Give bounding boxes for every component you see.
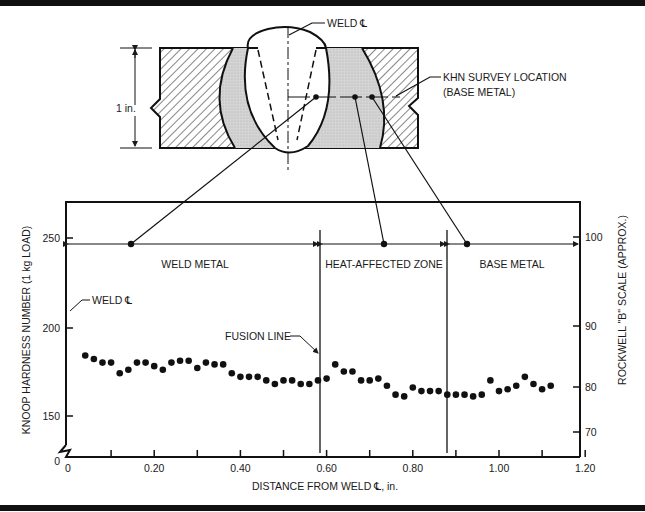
- x-tick-label: 0.20: [144, 462, 165, 474]
- x-axis-ticks: [111, 450, 585, 457]
- data-point: [496, 388, 503, 395]
- data-point: [461, 391, 468, 398]
- x-tick-label: 1.00: [489, 462, 510, 474]
- zone-label-haz: HEAT-AFFECTED ZONE: [325, 258, 443, 270]
- x-axis-label: DISTANCE FROM WELD ℄, in.: [252, 480, 398, 492]
- y-tick-250: 250: [42, 232, 60, 244]
- zone-label-weld-metal: WELD METAL: [161, 258, 229, 270]
- data-point: [470, 393, 477, 400]
- data-point: [410, 384, 417, 391]
- data-point: [91, 356, 98, 363]
- chart: 00.200.400.600.801.001.20 DISTANCE FROM …: [20, 202, 628, 492]
- data-point: [392, 391, 399, 398]
- data-point: [108, 359, 115, 366]
- data-point: [478, 391, 485, 398]
- data-point: [142, 359, 149, 366]
- data-point: [237, 374, 244, 381]
- data-point: [99, 359, 106, 366]
- data-point: [332, 361, 339, 368]
- data-point: [297, 381, 304, 388]
- chart-frame: [66, 202, 580, 457]
- y2-axis-label: ROCKWELL "B" SCALE (APPROX.): [616, 215, 628, 385]
- y-tick-0: 0: [54, 455, 60, 467]
- data-point: [82, 352, 89, 359]
- data-point: [306, 381, 313, 388]
- weld-centerline-label: WELD ℄: [327, 17, 367, 29]
- khn-data-points: [82, 352, 554, 400]
- data-point: [323, 375, 330, 382]
- data-point: [220, 361, 227, 368]
- data-point: [539, 386, 546, 393]
- data-point: [151, 363, 158, 370]
- data-point: [547, 382, 554, 389]
- data-point: [418, 388, 425, 395]
- x-tick-label: 0.80: [403, 462, 424, 474]
- y-axis-label: KNOOP HARDNESS NUMBER (1 kg LOAD): [20, 226, 32, 435]
- annotation-fusion-line: FUSION LINE: [225, 330, 291, 342]
- weld-hardness-figure: WELD ℄ 1 in. KHN SURVEY LOCATION (BASE M…: [0, 0, 645, 512]
- data-point: [125, 366, 132, 373]
- data-point: [177, 358, 184, 365]
- x-tick-label: 0: [65, 462, 71, 474]
- data-point: [487, 377, 494, 384]
- data-point: [315, 377, 322, 384]
- survey-location-sublabel: (BASE METAL): [443, 86, 515, 98]
- y2-tick-70: 70: [585, 426, 597, 438]
- data-point: [341, 368, 348, 375]
- weld-cross-section: WELD ℄ 1 in. KHN SURVEY LOCATION (BASE M…: [116, 17, 567, 172]
- data-point: [522, 374, 529, 381]
- data-point: [246, 374, 253, 381]
- data-point: [263, 377, 270, 384]
- y2-tick-90: 90: [585, 320, 597, 332]
- data-point: [504, 386, 511, 393]
- x-axis-tick-labels: 00.200.400.600.801.001.20: [65, 462, 595, 474]
- y-tick-200: 200: [42, 322, 60, 334]
- zone-label-base-metal: BASE METAL: [479, 258, 544, 270]
- data-point: [453, 391, 460, 398]
- y2-tick-80: 80: [585, 381, 597, 393]
- data-point: [349, 368, 356, 375]
- data-point: [228, 370, 235, 377]
- data-point: [194, 365, 201, 372]
- data-point: [160, 366, 167, 373]
- thickness-dimension-label: 1 in.: [116, 102, 136, 114]
- data-point: [401, 393, 408, 400]
- annotation-weld-centerline: WELD ℄: [92, 294, 132, 306]
- data-point: [375, 375, 382, 382]
- data-point: [427, 388, 434, 395]
- y2-tick-100: 100: [585, 231, 603, 243]
- data-point: [203, 359, 210, 366]
- x-tick-label: 0.40: [230, 462, 251, 474]
- data-point: [366, 377, 373, 384]
- x-tick-label: 1.20: [575, 462, 596, 474]
- data-point: [280, 377, 287, 384]
- data-point: [272, 381, 279, 388]
- data-point: [289, 377, 296, 384]
- y-tick-150: 150: [42, 410, 60, 422]
- data-point: [116, 370, 123, 377]
- survey-location-label: KHN SURVEY LOCATION: [443, 71, 567, 83]
- data-point: [211, 361, 218, 368]
- data-point: [254, 374, 261, 381]
- data-point: [168, 359, 175, 366]
- data-point: [134, 359, 141, 366]
- data-point: [358, 377, 365, 384]
- data-point: [513, 382, 520, 389]
- data-point: [530, 381, 537, 388]
- data-point: [185, 358, 192, 365]
- data-point: [444, 391, 451, 398]
- data-point: [384, 382, 391, 389]
- data-point: [435, 388, 442, 395]
- x-tick-label: 0.60: [316, 462, 337, 474]
